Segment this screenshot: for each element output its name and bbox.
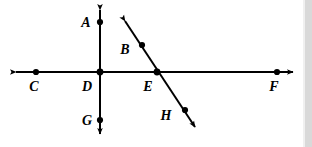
point-dot-A [97,19,103,25]
point-label-F: F [268,79,279,94]
point-dot-G [97,117,103,123]
right-margin-strip [303,0,312,147]
point-label-C: C [29,79,39,94]
margin-strip-edge [303,0,305,147]
point-dot-B [139,42,145,48]
point-label-E: E [142,79,152,94]
point-dot-F [274,69,280,75]
point-label-H: H [160,108,173,123]
geometry-svg: A B C D E F G H [0,0,312,147]
point-label-A: A [80,15,90,30]
geometry-figure: A B C D E F G H [0,0,312,147]
point-label-B: B [119,42,129,57]
point-dot-E [154,69,161,76]
point-dot-C [33,69,39,75]
point-dot-D [97,69,104,76]
point-label-G: G [82,113,92,128]
point-dot-H [182,107,188,113]
point-label-D: D [81,79,92,94]
